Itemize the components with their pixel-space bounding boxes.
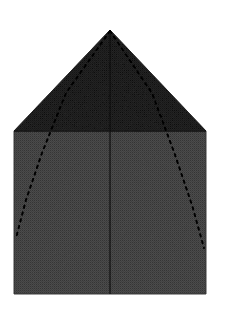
- origami-fold-diagram: [0, 0, 225, 315]
- diagram-canvas: Origami fold step diagram A square sheet…: [0, 0, 225, 315]
